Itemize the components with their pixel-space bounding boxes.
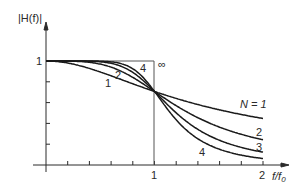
curve-label-n1: N = 1 bbox=[240, 98, 267, 110]
infinity-label: ∞ bbox=[158, 58, 166, 70]
y-ticks bbox=[46, 82, 50, 144]
x-tick-label-1: 1 bbox=[151, 169, 157, 181]
curve-label-left-4: 4 bbox=[140, 62, 146, 74]
curve-label-3: 3 bbox=[256, 141, 262, 153]
curve-label-left-1: 1 bbox=[105, 77, 111, 89]
x-ticks bbox=[68, 161, 263, 165]
y-axis-label: |H(f)| bbox=[18, 12, 42, 24]
curve-label-4: 4 bbox=[199, 146, 205, 158]
x-axis-arrow bbox=[281, 163, 289, 167]
curve-label-2: 2 bbox=[256, 126, 262, 138]
y-axis-arrow bbox=[44, 22, 48, 30]
curve-label-left-2: 2 bbox=[115, 69, 121, 81]
x-tick-label-2: 2 bbox=[259, 169, 265, 181]
x-axis-label: f/f0 bbox=[272, 170, 286, 184]
butterworth-response-chart: |H(f)| 1 1 2 f/f0 ∞ 1 2 4 N = 1 2 3 4 bbox=[0, 0, 304, 190]
y-tick-label-1: 1 bbox=[36, 55, 42, 67]
